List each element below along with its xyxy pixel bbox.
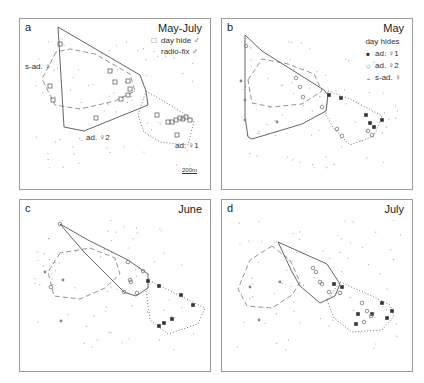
location-marker (242, 89, 243, 90)
location-marker (357, 102, 358, 103)
location-marker (173, 349, 174, 350)
panel-c: c June (19, 199, 211, 372)
location-marker (159, 340, 160, 341)
location-marker (135, 269, 136, 270)
location-marker (57, 68, 58, 69)
filled-square-marker-icon: ■ (364, 49, 372, 60)
location-marker (187, 150, 188, 151)
location-marker (252, 296, 253, 297)
location-marker (332, 282, 336, 286)
location-marker (252, 284, 253, 285)
location-marker (107, 147, 108, 148)
location-marker (244, 119, 247, 122)
panel-b: b May day hides ■ad. ♀1 ◇ad. ♀2 ▵s-ad. ♀ (221, 18, 413, 190)
location-marker (300, 322, 301, 323)
location-marker (353, 221, 354, 222)
location-marker (47, 153, 48, 154)
location-marker (191, 303, 195, 307)
location-marker (36, 137, 37, 138)
home-range-polygon (48, 248, 120, 299)
location-marker (38, 58, 39, 59)
location-marker (55, 142, 56, 143)
legend-radio-fix-male: ·radio-fix ♂ (150, 46, 199, 57)
location-marker (281, 85, 282, 86)
legend-ad-female-1: ■ad. ♀1 (364, 48, 401, 60)
panel-c-title: June (178, 203, 202, 215)
location-marker (393, 220, 394, 221)
location-marker (179, 293, 183, 297)
location-marker (303, 105, 304, 106)
location-marker (311, 266, 315, 270)
location-marker (309, 48, 310, 49)
location-marker (375, 343, 376, 344)
location-marker (312, 164, 313, 165)
location-marker (303, 67, 304, 68)
location-marker (78, 69, 79, 70)
location-marker (170, 317, 174, 321)
dot-marker-icon: · (150, 46, 158, 57)
location-marker (163, 309, 164, 310)
location-marker (395, 105, 396, 106)
location-marker (337, 235, 338, 236)
location-marker (60, 320, 63, 323)
location-marker (339, 252, 340, 253)
location-marker (108, 291, 109, 292)
location-marker (366, 157, 367, 158)
panel-b-title: May (383, 22, 404, 34)
location-marker (289, 59, 290, 60)
location-marker (62, 279, 65, 282)
location-marker (344, 89, 345, 90)
location-marker (291, 42, 292, 43)
location-marker (301, 95, 305, 99)
location-marker (325, 75, 326, 76)
location-marker (107, 231, 108, 232)
location-marker (182, 73, 183, 74)
location-marker (313, 167, 314, 168)
location-marker (386, 309, 387, 310)
location-marker (259, 133, 260, 134)
location-marker (322, 250, 323, 251)
location-marker (340, 285, 344, 289)
location-marker (319, 96, 320, 97)
location-marker (75, 251, 76, 252)
location-marker (171, 316, 172, 317)
location-marker (383, 92, 384, 93)
location-marker (274, 120, 275, 121)
location-marker (249, 286, 252, 289)
location-marker (241, 116, 242, 117)
home-range-polygon (278, 242, 340, 303)
location-marker (325, 156, 326, 157)
location-marker (134, 91, 135, 92)
location-marker (117, 69, 118, 70)
location-marker (124, 226, 125, 227)
location-marker (128, 338, 129, 339)
location-marker (285, 349, 286, 350)
location-marker (113, 80, 117, 84)
location-marker (72, 146, 73, 147)
location-marker (37, 322, 38, 323)
location-marker (79, 138, 80, 139)
location-marker (92, 346, 93, 347)
location-marker (370, 133, 374, 137)
location-marker (385, 316, 389, 320)
location-marker (288, 339, 289, 340)
location-marker (240, 80, 243, 83)
location-marker (176, 164, 177, 165)
location-marker (326, 167, 327, 168)
panel-c-label: c (25, 202, 31, 214)
location-marker (341, 146, 342, 147)
location-marker (339, 96, 343, 100)
location-marker (244, 322, 245, 323)
location-marker (94, 116, 98, 120)
location-marker (88, 85, 89, 86)
location-marker (105, 311, 106, 312)
location-marker (137, 50, 138, 51)
location-marker (127, 102, 128, 103)
location-marker (45, 85, 46, 86)
location-marker (384, 112, 385, 113)
location-marker (72, 77, 73, 78)
scale-bar: 200m (182, 167, 197, 174)
location-marker (110, 287, 111, 288)
location-marker (48, 84, 52, 88)
location-marker (116, 45, 117, 46)
